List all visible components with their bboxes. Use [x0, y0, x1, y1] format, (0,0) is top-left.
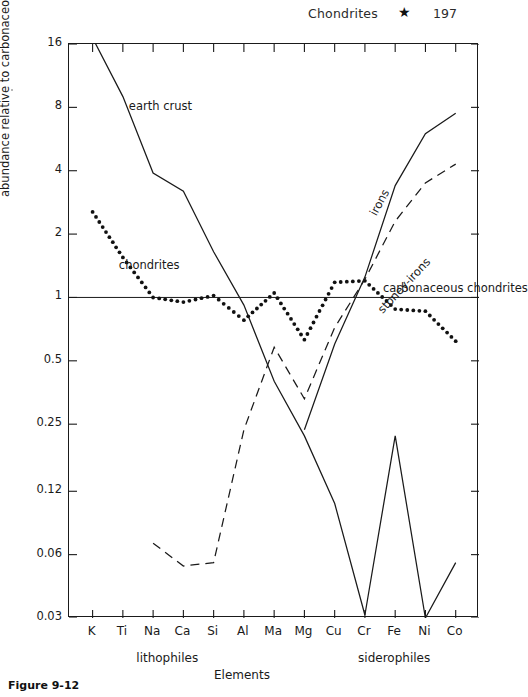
header-title: Chondrites — [308, 6, 378, 21]
y-tick-0.5: 0.5 — [16, 352, 62, 366]
star-icon: ★ — [398, 5, 411, 19]
y-tick-1: 1 — [16, 288, 62, 302]
y-axis-title: abundance relative to carbonaceous chond… — [0, 0, 12, 197]
y-tick-2: 2 — [16, 225, 62, 239]
chart-canvas — [69, 44, 479, 618]
annotation-chondrites: chondrites — [119, 258, 180, 272]
y-tick-0.25: 0.25 — [16, 415, 62, 429]
y-tick-4: 4 — [16, 162, 62, 176]
y-tick-16: 16 — [16, 35, 62, 49]
y-tick-8: 8 — [16, 98, 62, 112]
group-label-siderophiles: siderophiles — [334, 651, 454, 665]
figure-caption: Figure 9-12 — [8, 679, 79, 692]
page-header: Chondrites ★ 197 — [0, 0, 497, 34]
group-label-lithophiles: lithophiles — [107, 651, 227, 665]
y-tick-0.03: 0.03 — [16, 609, 62, 623]
header-page-number: 197 — [433, 6, 457, 21]
y-tick-0.06: 0.06 — [16, 546, 62, 560]
annotation-earth-crust: earth crust — [129, 99, 192, 113]
chart-plot-area: earth crust chondrites carbonaceous chon… — [68, 43, 478, 617]
x-axis-title: Elements — [214, 668, 270, 682]
x-tick-co: Co — [435, 624, 475, 638]
y-tick-0.12: 0.12 — [16, 482, 62, 496]
